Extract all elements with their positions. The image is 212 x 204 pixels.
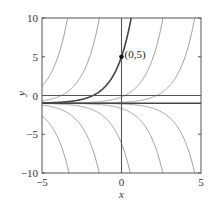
point-annotation: (0,5) bbox=[125, 48, 146, 61]
y-tick-label: 10 bbox=[27, 12, 39, 24]
y-axis-label: y bbox=[15, 91, 27, 97]
x-tick-label: 5 bbox=[198, 176, 204, 188]
x-axis-label: x bbox=[118, 188, 124, 200]
y-tick-label: 0 bbox=[33, 90, 39, 102]
highlight-point bbox=[119, 54, 124, 59]
chart: −10−50510−505xy(0,5) bbox=[0, 0, 212, 204]
y-tick-label: 5 bbox=[33, 51, 39, 63]
x-tick-label: 0 bbox=[119, 176, 125, 188]
axes bbox=[42, 18, 201, 173]
y-tick-label: −5 bbox=[26, 128, 38, 140]
x-tick-label: −5 bbox=[36, 176, 48, 188]
